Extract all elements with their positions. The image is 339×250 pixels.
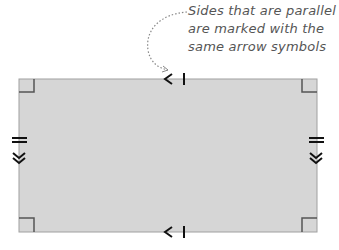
- rectangle: [19, 79, 317, 232]
- dotted-pointer-arrow: [148, 12, 187, 70]
- rectangle-diagram: [0, 0, 339, 250]
